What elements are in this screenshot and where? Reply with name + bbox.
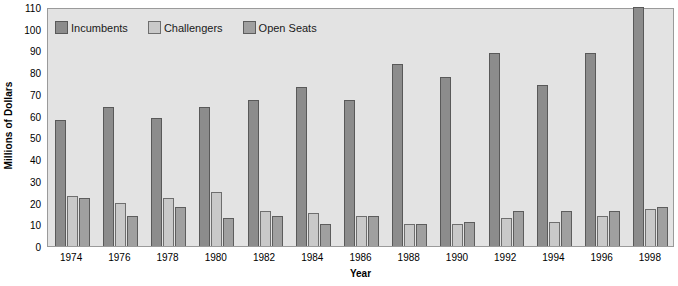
bar-incumbents-1990 [440,77,451,246]
y-tick-label: 100 [24,24,41,35]
bar-challengers-1996 [597,216,608,246]
year-group [530,9,578,246]
year-group [386,9,434,246]
bar-open-seats-1990 [464,222,475,246]
bar-incumbents-1996 [585,53,596,246]
bar-incumbents-1976 [103,107,114,246]
bar-open-seats-1980 [223,218,234,246]
x-tick-label: 1976 [108,252,130,263]
x-tick-label: 1974 [60,252,82,263]
x-tick-label: 1978 [156,252,178,263]
legend-item-incumbents: Incumbents [55,21,128,34]
plot-area [47,8,674,247]
y-tick-label: 30 [30,176,41,187]
legend-swatch-icon [243,21,256,34]
bar-incumbents-1998 [633,7,644,246]
x-axis-title: Year [47,268,674,279]
x-tick-label: 1988 [398,252,420,263]
chart-legend: IncumbentsChallengersOpen Seats [55,21,317,34]
bars-layer [48,9,673,246]
y-tick-label: 110 [25,3,41,14]
year-group [482,9,530,246]
y-axis-title-text: Millions of Dollars [3,81,14,169]
y-tick-label: 70 [30,89,41,100]
x-tick-label: 1994 [542,252,564,263]
bar-challengers-1994 [549,222,560,246]
legend-label: Incumbents [71,22,128,34]
legend-label: Open Seats [259,22,317,34]
x-axis-tick-labels: 1974197619781980198219841986198819901992… [47,252,674,266]
bar-challengers-1988 [404,224,415,246]
bar-challengers-1984 [308,213,319,246]
legend-swatch-icon [148,21,161,34]
year-group [434,9,482,246]
year-group [289,9,337,246]
bar-challengers-1990 [452,224,463,246]
year-group [241,9,289,246]
x-tick-label: 1982 [253,252,275,263]
y-tick-label: 80 [30,68,41,79]
bar-open-seats-1994 [561,211,572,246]
year-group [96,9,144,246]
legend-swatch-icon [55,21,68,34]
bar-open-seats-1982 [272,216,283,246]
bar-open-seats-1974 [79,198,90,246]
bar-open-seats-1984 [320,224,331,246]
bar-open-seats-1976 [127,216,138,246]
bar-open-seats-1988 [416,224,427,246]
bar-open-seats-1986 [368,216,379,246]
bar-chart: Millions of Dollars 01020304050607080901… [0,0,678,286]
y-tick-label: 0 [35,242,41,253]
x-tick-label: 1998 [639,252,661,263]
x-tick-label: 1992 [494,252,516,263]
year-group [144,9,192,246]
bar-challengers-1974 [67,196,78,246]
y-tick-label: 10 [30,220,41,231]
bar-challengers-1986 [356,216,367,246]
year-group [193,9,241,246]
bar-incumbents-1994 [537,85,548,246]
legend-item-challengers: Challengers [148,21,223,34]
x-tick-label: 1990 [446,252,468,263]
year-group [337,9,385,246]
bar-open-seats-1996 [609,211,620,246]
bar-open-seats-1978 [175,207,186,246]
bar-incumbents-1978 [151,118,162,246]
bar-incumbents-1988 [392,64,403,247]
y-tick-label: 50 [30,133,41,144]
bar-incumbents-1980 [199,107,210,246]
year-group [627,9,675,246]
x-tick-label: 1980 [205,252,227,263]
y-tick-label: 90 [30,46,41,57]
bar-challengers-1998 [645,209,656,246]
bar-challengers-1992 [501,218,512,246]
bar-challengers-1980 [211,192,222,246]
y-tick-label: 40 [30,155,41,166]
legend-item-open-seats: Open Seats [243,21,317,34]
bar-incumbents-1986 [344,100,355,246]
year-group [48,9,96,246]
bar-challengers-1982 [260,211,271,246]
bar-challengers-1978 [163,198,174,246]
y-axis-tick-labels: 0102030405060708090100110 [14,0,44,255]
y-tick-label: 20 [30,198,41,209]
y-tick-label: 60 [30,111,41,122]
legend-label: Challengers [164,22,223,34]
x-tick-label: 1986 [349,252,371,263]
bar-open-seats-1992 [513,211,524,246]
bar-challengers-1976 [115,203,126,246]
bar-incumbents-1992 [489,53,500,246]
x-tick-label: 1984 [301,252,323,263]
bar-incumbents-1982 [248,100,259,246]
bar-incumbents-1974 [55,120,66,246]
bar-incumbents-1984 [296,87,307,246]
bar-open-seats-1998 [657,207,668,246]
x-tick-label: 1996 [591,252,613,263]
year-group [579,9,627,246]
